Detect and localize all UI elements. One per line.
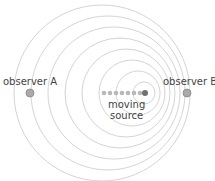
source-past-position bbox=[102, 91, 107, 96]
source-past-position bbox=[132, 91, 137, 96]
observer-b-label: observer B bbox=[163, 76, 215, 87]
source-past-position bbox=[138, 91, 143, 96]
observer-a-label: observer A bbox=[3, 76, 57, 87]
observer-b-dot bbox=[183, 89, 191, 97]
source-past-position bbox=[108, 91, 113, 96]
observer-a-dot bbox=[26, 89, 34, 97]
source-past-position bbox=[114, 91, 119, 96]
moving-source-label-line2: source bbox=[110, 110, 143, 121]
moving-source-label-line1: moving bbox=[108, 99, 145, 110]
doppler-diagram bbox=[0, 0, 215, 181]
source-past-position bbox=[120, 91, 125, 96]
moving-source-trail bbox=[102, 90, 148, 96]
source-current-position bbox=[142, 90, 148, 96]
source-past-position bbox=[126, 91, 131, 96]
